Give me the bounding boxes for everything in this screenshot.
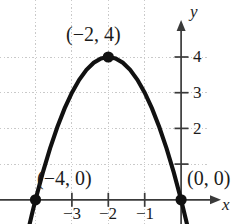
graph-canvas — [0, 0, 249, 224]
x-axis-label: x — [222, 196, 230, 213]
y-axis-arrowhead — [177, 20, 186, 31]
y-axis-label: y — [190, 3, 198, 20]
y-tick-label-3: 3 — [193, 84, 202, 101]
x-tick-label-minus-1: −1 — [136, 205, 154, 222]
x-tick-label-minus-3: −3 — [63, 205, 81, 222]
origin-point-label: (0, 0) — [187, 168, 230, 188]
x-axis-arrowhead — [210, 195, 221, 204]
x-tick-label-minus-2: −2 — [99, 205, 117, 222]
vertex-point-label: (−2, 4) — [66, 24, 121, 44]
parabola-graph-figure: (−2, 4) (−4, 0) (0, 0) 4 3 2 −3 −2 −1 y … — [0, 0, 249, 224]
point-vertex — [103, 51, 114, 62]
point-origin — [176, 194, 187, 205]
point-x-intercept-left — [30, 194, 41, 205]
y-tick-label-2: 2 — [193, 120, 202, 137]
left-intercept-point-label: (−4, 0) — [37, 168, 92, 188]
y-tick-label-4: 4 — [193, 48, 202, 65]
